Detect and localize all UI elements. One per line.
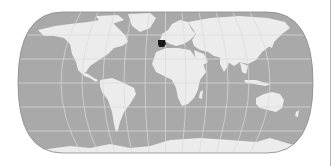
world-map xyxy=(0,0,332,166)
frame-border xyxy=(330,0,331,166)
